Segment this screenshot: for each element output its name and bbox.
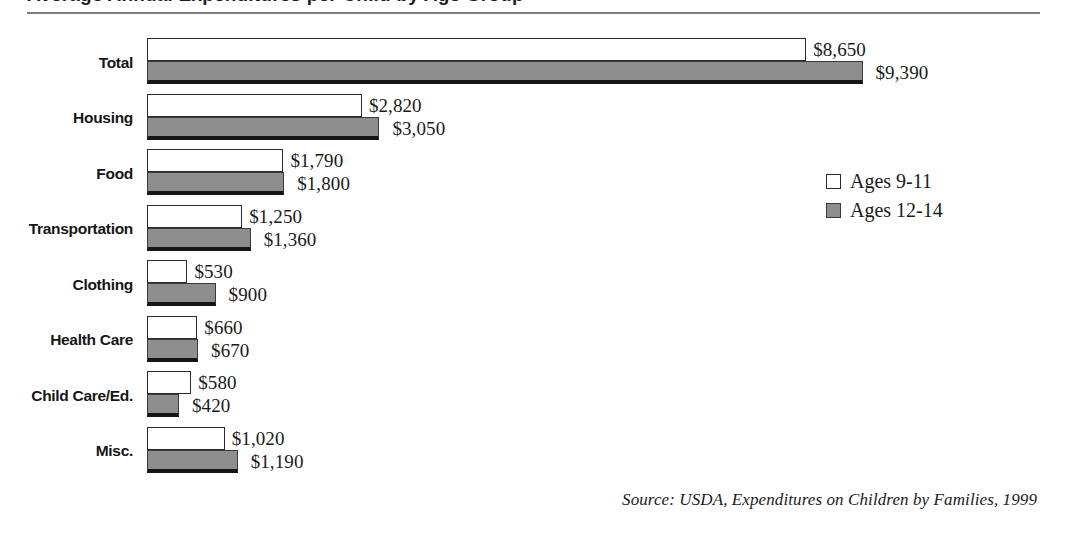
- bar-value-label: $1,020: [225, 427, 285, 450]
- category-label: Child Care/Ed.: [0, 371, 133, 420]
- bar-ages-12-14[interactable]: [147, 394, 179, 417]
- bar-value-label: $900: [216, 283, 267, 306]
- bar-value-label: $420: [179, 394, 230, 417]
- bar-value-label: $3,050: [379, 117, 445, 140]
- bar-group: Health Care$660$670: [0, 316, 1065, 365]
- legend-item[interactable]: Ages 9-11: [826, 167, 1036, 196]
- category-label: Housing: [0, 94, 133, 143]
- bar-ages-12-14[interactable]: [147, 61, 863, 84]
- bar-ages-12-14[interactable]: [147, 339, 198, 362]
- bar-value-label: $1,190: [238, 450, 304, 473]
- header-divider: [27, 12, 1040, 14]
- bar-value-label: $1,800: [284, 172, 350, 195]
- bar-group: Clothing$530$900: [0, 260, 1065, 309]
- bar-ages-9-11[interactable]: [147, 149, 283, 172]
- source-note: Source: USDA, Expenditures on Children b…: [622, 490, 1037, 510]
- legend-item[interactable]: Ages 12-14: [826, 196, 1036, 225]
- legend-label: Ages 9-11: [850, 170, 932, 193]
- chart-title-text: Average Annual Expenditures per Child by…: [27, 0, 727, 6]
- chart-title-clipped: Average Annual Expenditures per Child by…: [27, 0, 727, 6]
- bar-value-label: $2,820: [362, 94, 422, 117]
- category-label: Food: [0, 149, 133, 198]
- bar-ages-9-11[interactable]: [147, 38, 806, 61]
- bar-ages-9-11[interactable]: [147, 316, 197, 339]
- category-label: Health Care: [0, 316, 133, 365]
- bar-value-label: $8,650: [806, 38, 866, 61]
- light-swatch: [826, 174, 841, 189]
- category-label: Transportation: [0, 205, 133, 254]
- bar-ages-9-11[interactable]: [147, 205, 242, 228]
- bar-value-label: $580: [191, 371, 236, 394]
- category-label: Total: [0, 38, 133, 87]
- bar-ages-12-14[interactable]: [147, 117, 379, 140]
- chart-legend: Ages 9-11Ages 12-14: [826, 167, 1036, 225]
- bar-ages-9-11[interactable]: [147, 371, 191, 394]
- category-label: Misc.: [0, 427, 133, 476]
- dark-swatch: [826, 203, 841, 218]
- bar-ages-9-11[interactable]: [147, 94, 362, 117]
- bar-value-label: $9,390: [863, 61, 929, 84]
- bar-value-label: $670: [198, 339, 249, 362]
- legend-label: Ages 12-14: [850, 199, 943, 222]
- bar-value-label: $1,790: [283, 149, 343, 172]
- bar-group: Total$8,650$9,390: [0, 38, 1065, 87]
- bar-ages-12-14[interactable]: [147, 283, 216, 306]
- bar-group: Housing$2,820$3,050: [0, 94, 1065, 143]
- bar-value-label: $1,360: [251, 228, 317, 251]
- category-label: Clothing: [0, 260, 133, 309]
- bar-value-label: $660: [197, 316, 242, 339]
- bar-group: Child Care/Ed.$580$420: [0, 371, 1065, 420]
- bar-ages-12-14[interactable]: [147, 450, 238, 473]
- bar-group: Misc.$1,020$1,190: [0, 427, 1065, 476]
- bar-value-label: $530: [187, 260, 232, 283]
- bar-chart-plot: Total$8,650$9,390Housing$2,820$3,050Food…: [0, 30, 1065, 510]
- bar-ages-12-14[interactable]: [147, 228, 251, 251]
- bar-ages-12-14[interactable]: [147, 172, 284, 195]
- bar-value-label: $1,250: [242, 205, 302, 228]
- bar-ages-9-11[interactable]: [147, 427, 225, 450]
- chart-page: Average Annual Expenditures per Child by…: [0, 0, 1065, 538]
- bar-ages-9-11[interactable]: [147, 260, 187, 283]
